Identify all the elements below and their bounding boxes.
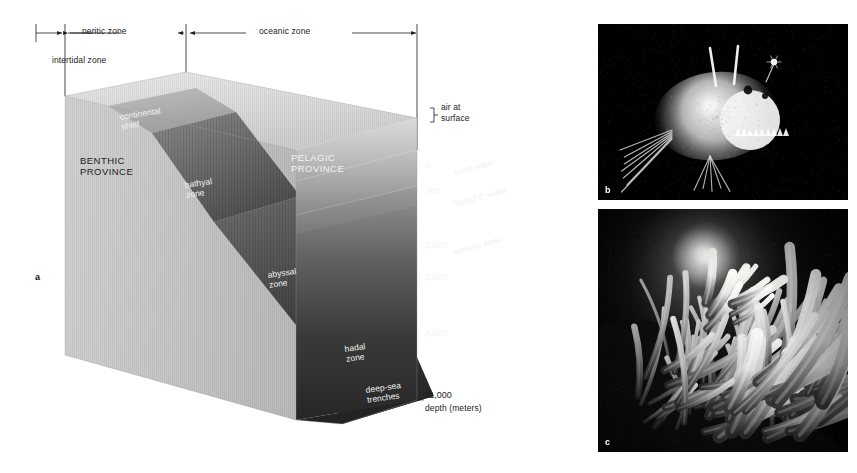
air-at-surface-line2: surface (441, 113, 470, 124)
panel-letter-b: b (605, 185, 611, 195)
zone-label-neritic: neritic zone (82, 26, 127, 36)
zone-label-oceanic: oceanic zone (259, 26, 310, 36)
depth-tick-4000: 4,000 (425, 328, 448, 338)
panel-letter-c: c (605, 437, 610, 447)
panel-letter-a: a (35, 272, 40, 282)
air-at-surface-line1: air at (441, 102, 470, 113)
depth-tick-2000: 2,000 (425, 272, 448, 282)
air-at-surface-note: air at surface (441, 102, 470, 123)
province-label-benthic: BENTHIC PROVINCE (80, 155, 133, 177)
pelagic-line1: PELAGIC (291, 152, 344, 163)
depth-tick-11000: 11,000 (425, 390, 452, 400)
air-at-surface-bracket (430, 108, 438, 122)
depth-axis-label: depth (meters) (425, 403, 482, 413)
ocean-zones-figure: neritic zone oceanic zone intertidal zon… (0, 0, 857, 473)
depth-tick-200: 200 (425, 186, 440, 196)
tubeworms-photo-image (598, 209, 848, 452)
benthic-zone-bathyal: bathyal zone (184, 176, 214, 200)
panel-c-photo-tubeworms: c (598, 209, 848, 452)
zone-label-intertidal: intertidal zone (52, 55, 106, 65)
benthic-zone-hadal: hadal zone (344, 341, 367, 364)
depth-tick-1000: 1,000 (425, 240, 448, 250)
panel-b-photo-anglerfish: b (598, 24, 848, 200)
pelagic-line2: PROVINCE (291, 163, 344, 174)
anglerfish-photo-image (598, 24, 848, 200)
panel-a-block-diagram: neritic zone oceanic zone intertidal zon… (0, 0, 590, 473)
benthic-line2: PROVINCE (80, 166, 133, 177)
benthic-line1: BENTHIC (80, 155, 133, 166)
province-label-pelagic: PELAGIC PROVINCE (291, 152, 344, 174)
benthic-zone-abyssal: abyssal zone (267, 266, 298, 290)
depth-tick-0: 0 (425, 160, 430, 170)
